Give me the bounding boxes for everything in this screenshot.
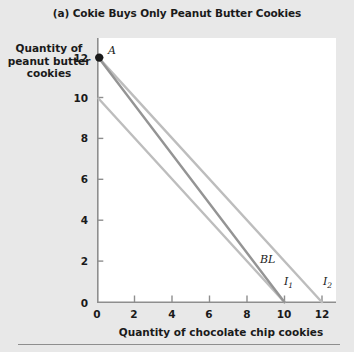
indifference-curve-i1-label: I1: [284, 275, 293, 290]
footer-divider: [18, 344, 340, 345]
x-tick-label-10: 10: [272, 308, 296, 320]
budget-line-label: BL: [260, 253, 275, 266]
x-tick-label-4: 4: [160, 308, 184, 320]
y-tick-marks: [98, 58, 104, 262]
indifference-curve-i2-label: I2: [323, 275, 332, 290]
budget-line: [99, 58, 285, 303]
plot-area: BL I1 I2 A: [97, 38, 336, 303]
y-tick-label-8: 8: [62, 132, 88, 144]
y-tick-label-2: 2: [62, 255, 88, 267]
y-axis-title-line-2: peanut butter: [6, 55, 92, 68]
y-tick-label-0: 0: [62, 297, 88, 309]
y-axis-title-line-3: cookies: [6, 67, 92, 80]
x-tick-label-6: 6: [197, 308, 221, 320]
y-axis-title: Quantity of peanut butter cookies: [6, 42, 92, 80]
economics-figure: (a) Cokie Buys Only Peanut Butter Cookie…: [0, 0, 354, 352]
y-tick-label-10: 10: [62, 92, 88, 104]
y-tick-label-4: 4: [62, 214, 88, 226]
indifference-curve-i1: [99, 99, 285, 303]
page-title: (a) Cokie Buys Only Peanut Butter Cookie…: [0, 7, 354, 19]
x-tick-label-8: 8: [235, 308, 259, 320]
y-axis-title-line-1: Quantity of: [6, 42, 92, 55]
x-tick-label-0: 0: [85, 308, 109, 320]
chart-svg: [97, 38, 336, 303]
indifference-curve-i2: [99, 58, 323, 303]
x-tick-label-2: 2: [122, 308, 146, 320]
i1-subscript: 1: [288, 281, 293, 290]
x-tick-marks: [135, 296, 323, 303]
y-tick-label-6: 6: [62, 173, 88, 185]
x-tick-label-12: 12: [310, 308, 334, 320]
point-a-marker: [95, 53, 103, 61]
i2-subscript: 2: [327, 281, 332, 290]
x-axis-title: Quantity of chocolate chip cookies: [97, 326, 345, 338]
point-a-label: A: [108, 44, 116, 57]
